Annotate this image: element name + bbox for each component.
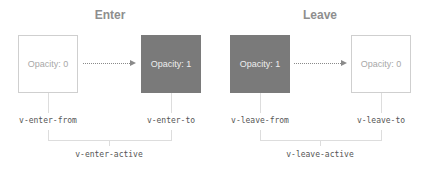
leave-from-connector <box>260 93 261 113</box>
enter-from-box: Opacity: 0 <box>18 35 78 93</box>
enter-bracket-bar <box>48 140 172 141</box>
leave-arrow-icon <box>294 63 347 65</box>
enter-from-connector <box>48 93 49 113</box>
leave-to-box: Opacity: 0 <box>351 35 411 93</box>
enter-arrow-icon <box>83 63 136 65</box>
leave-bracket-right <box>381 130 382 140</box>
enter-to-connector <box>171 93 172 113</box>
enter-to-label: v-enter-to <box>121 116 221 125</box>
enter-heading: Enter <box>60 8 160 22</box>
leave-bracket-tick <box>320 140 321 146</box>
enter-bracket-right <box>171 130 172 140</box>
leave-active-label: v-leave-active <box>270 150 370 159</box>
enter-bracket-left <box>48 130 49 140</box>
enter-bracket-tick <box>109 140 110 146</box>
enter-from-box-label: Opacity: 0 <box>28 59 69 69</box>
enter-to-box-label: Opacity: 1 <box>151 59 192 69</box>
enter-to-box: Opacity: 1 <box>141 35 201 93</box>
leave-to-label: v-leave-to <box>331 116 426 125</box>
leave-bracket-left <box>260 130 261 140</box>
leave-to-box-label: Opacity: 0 <box>361 59 402 69</box>
enter-from-label: v-enter-from <box>0 116 98 125</box>
leave-from-box-label: Opacity: 1 <box>240 59 281 69</box>
leave-from-box: Opacity: 1 <box>230 35 290 93</box>
leave-heading: Leave <box>270 8 370 22</box>
leave-bracket-bar <box>260 140 382 141</box>
leave-from-label: v-leave-from <box>210 116 310 125</box>
leave-to-connector <box>381 93 382 113</box>
enter-active-label: v-enter-active <box>59 150 159 159</box>
